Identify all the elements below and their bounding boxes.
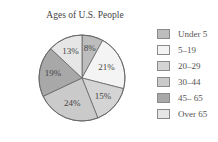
- legend-swatch: [157, 61, 170, 71]
- legend-label: 45– 65: [178, 93, 203, 103]
- legend-swatch: [157, 93, 170, 103]
- legend-item: 5–19: [157, 42, 207, 58]
- legend-item: Under 5: [157, 26, 207, 42]
- legend-label: 30–44: [178, 77, 201, 87]
- slice-label: 8%: [84, 43, 97, 53]
- legend-item: 20–29: [157, 58, 207, 74]
- legend-swatch: [157, 45, 170, 55]
- slice-label: 24%: [64, 98, 81, 108]
- slice-label: 15%: [95, 91, 112, 101]
- legend-label: 20–29: [178, 61, 201, 71]
- legend-swatch: [157, 29, 170, 39]
- legend-label: Over 65: [178, 109, 207, 119]
- legend-item: Over 65: [157, 106, 207, 122]
- legend-label: Under 5: [178, 29, 207, 39]
- legend: Under 55–1920–2930–4445– 65Over 65: [157, 26, 207, 122]
- slice-label: 21%: [98, 62, 115, 72]
- slice-label: 13%: [62, 46, 79, 56]
- slice-label: 19%: [45, 68, 62, 78]
- legend-label: 5–19: [178, 45, 196, 55]
- legend-swatch: [157, 109, 170, 119]
- legend-item: 45– 65: [157, 90, 207, 106]
- legend-swatch: [157, 77, 170, 87]
- legend-item: 30–44: [157, 74, 207, 90]
